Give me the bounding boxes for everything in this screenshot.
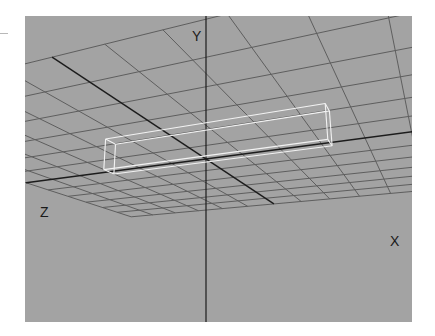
- ground-grid: [25, 16, 412, 217]
- z-axis-label: Z: [40, 205, 49, 219]
- x-axis-label: X: [390, 234, 399, 248]
- scene-canvas[interactable]: [25, 16, 412, 322]
- 3d-viewport[interactable]: Y Z X: [25, 16, 412, 322]
- stray-mark: [0, 33, 8, 34]
- y-axis-label: Y: [192, 29, 201, 43]
